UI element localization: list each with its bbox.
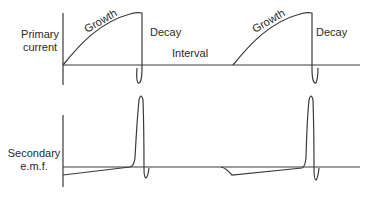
decay-label-2: Decay: [316, 26, 348, 38]
primary-label-line1: Primary: [21, 28, 59, 40]
decay-label-1: Decay: [150, 26, 182, 38]
secondary-emf-panel: Secondary e.m.f.: [8, 96, 360, 187]
primary-label-line2: current: [23, 41, 57, 53]
induction-coil-waveform-diagram: Primary current Growth Decay Interval Gr…: [0, 0, 369, 198]
growth-label-2: Growth: [250, 7, 287, 35]
interval-label: Interval: [172, 47, 208, 59]
secondary-spike-1: [63, 96, 149, 178]
diagram-svg: Primary current Growth Decay Interval Gr…: [0, 0, 369, 198]
primary-current-panel: Primary current Growth Decay Interval Gr…: [21, 7, 360, 85]
secondary-label-line2: e.m.f.: [20, 160, 48, 172]
secondary-label-line1: Secondary: [8, 147, 61, 159]
